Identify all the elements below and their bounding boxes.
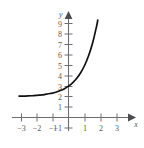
x-axis-name-label: x <box>133 120 138 129</box>
y-tick-label-8: 8 <box>58 30 62 39</box>
y-tick-label-1: 1 <box>58 103 62 112</box>
x-tick-label-neg3: −3 <box>17 124 26 133</box>
y-tick-label-6: 6 <box>58 51 62 60</box>
y-tick-label-4: 4 <box>58 72 62 81</box>
chart-canvas: −3 −2 −1 1 2 3 9 8 7 6 5 4 3 2 1 −1 y x <box>0 0 144 148</box>
y-tick-label-2: 2 <box>58 93 62 102</box>
y-axis-name-label: y <box>58 10 63 19</box>
exponential-graph-figure: −3 −2 −1 1 2 3 9 8 7 6 5 4 3 2 1 −1 y x <box>0 0 144 148</box>
y-tick-label-neg1: −1 <box>53 124 62 133</box>
x-tick-label-2: 2 <box>99 124 103 133</box>
y-tick-label-7: 7 <box>58 41 62 50</box>
y-axis-arrow-icon <box>65 11 73 19</box>
x-tick-label-1: 1 <box>83 124 87 133</box>
y-tick-label-9: 9 <box>58 20 62 29</box>
x-tick-label-neg2: −2 <box>33 124 42 133</box>
x-tick-label-3: 3 <box>115 124 119 133</box>
y-tick-label-5: 5 <box>58 62 62 71</box>
